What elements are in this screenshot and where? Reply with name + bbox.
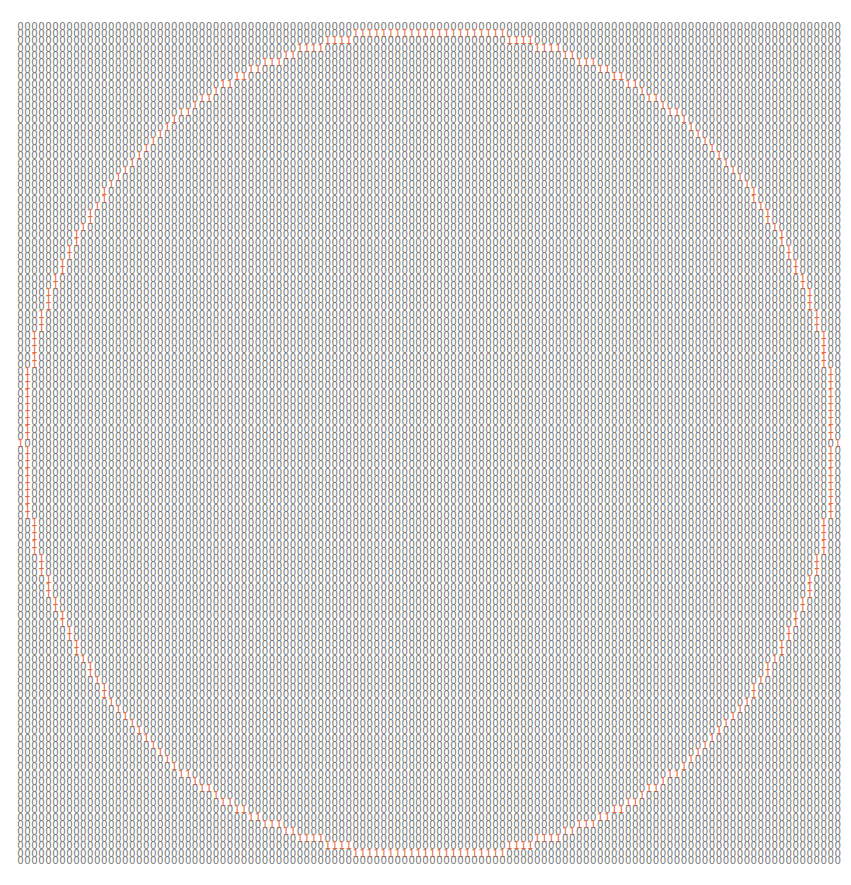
- bit-zero: 0: [729, 857, 736, 864]
- bit-zero: 0: [701, 857, 708, 864]
- bit-zero: 0: [282, 857, 289, 864]
- bit-zero: 0: [268, 857, 275, 864]
- bit-zero: 0: [80, 857, 87, 864]
- bit-zero: 0: [499, 857, 506, 864]
- bit-zero: 0: [688, 857, 695, 864]
- bit-zero: 0: [715, 857, 722, 864]
- bit-zero: 0: [150, 857, 157, 864]
- bit-zero: 0: [185, 857, 192, 864]
- bit-zero: 0: [513, 857, 520, 864]
- bit-zero: 0: [17, 857, 24, 864]
- bit-zero: 0: [771, 857, 778, 864]
- bit-zero: 0: [241, 857, 248, 864]
- bit-zero: 0: [785, 857, 792, 864]
- bit-zero: 0: [73, 857, 80, 864]
- bit-zero: 0: [373, 857, 380, 864]
- bit-zero: 0: [303, 857, 310, 864]
- bit-zero: 0: [792, 857, 799, 864]
- bit-zero: 0: [401, 857, 408, 864]
- bit-zero: 0: [101, 857, 108, 864]
- bit-zero: 0: [408, 857, 415, 864]
- bit-zero: 0: [254, 857, 261, 864]
- grid-row: 0000000000000000000000000000000000000000…: [17, 857, 841, 864]
- bit-zero: 0: [799, 857, 806, 864]
- bit-zero: 0: [597, 857, 604, 864]
- bit-zero: 0: [387, 857, 394, 864]
- bit-zero: 0: [296, 857, 303, 864]
- binary-circle-grid: 0000000000000000000000000000000000000000…: [17, 23, 841, 864]
- bit-zero: 0: [464, 857, 471, 864]
- bit-zero: 0: [694, 857, 701, 864]
- bit-zero: 0: [632, 857, 639, 864]
- bit-zero: 0: [359, 857, 366, 864]
- bit-zero: 0: [178, 857, 185, 864]
- bit-zero: 0: [555, 857, 562, 864]
- bit-zero: 0: [227, 857, 234, 864]
- bit-zero: 0: [639, 857, 646, 864]
- bit-zero: 0: [604, 857, 611, 864]
- bit-zero: 0: [331, 857, 338, 864]
- bit-zero: 0: [317, 857, 324, 864]
- bit-zero: 0: [206, 857, 213, 864]
- bit-zero: 0: [415, 857, 422, 864]
- bit-zero: 0: [338, 857, 345, 864]
- bit-zero: 0: [813, 857, 820, 864]
- bit-zero: 0: [122, 857, 129, 864]
- bit-zero: 0: [722, 857, 729, 864]
- bit-zero: 0: [457, 857, 464, 864]
- bit-zero: 0: [681, 857, 688, 864]
- bit-zero: 0: [485, 857, 492, 864]
- bit-zero: 0: [660, 857, 667, 864]
- bit-zero: 0: [576, 857, 583, 864]
- bit-zero: 0: [192, 857, 199, 864]
- bit-zero: 0: [820, 857, 827, 864]
- bit-zero: 0: [708, 857, 715, 864]
- bit-zero: 0: [667, 857, 674, 864]
- bit-zero: 0: [157, 857, 164, 864]
- bit-zero: 0: [422, 857, 429, 864]
- bit-zero: 0: [618, 857, 625, 864]
- bit-zero: 0: [24, 857, 31, 864]
- bit-zero: 0: [625, 857, 632, 864]
- bit-zero: 0: [143, 857, 150, 864]
- bit-zero: 0: [52, 857, 59, 864]
- bit-zero: 0: [94, 857, 101, 864]
- bit-zero: 0: [324, 857, 331, 864]
- bit-zero: 0: [520, 857, 527, 864]
- bit-zero: 0: [345, 857, 352, 864]
- bit-zero: 0: [443, 857, 450, 864]
- bit-zero: 0: [506, 857, 513, 864]
- bit-zero: 0: [548, 857, 555, 864]
- bit-zero: 0: [583, 857, 590, 864]
- bit-zero: 0: [31, 857, 38, 864]
- bit-zero: 0: [213, 857, 220, 864]
- bit-zero: 0: [45, 857, 52, 864]
- bit-zero: 0: [380, 857, 387, 864]
- bit-zero: 0: [827, 857, 834, 864]
- bit-zero: 0: [136, 857, 143, 864]
- bit-zero: 0: [736, 857, 743, 864]
- bit-zero: 0: [220, 857, 227, 864]
- bit-zero: 0: [590, 857, 597, 864]
- bit-zero: 0: [59, 857, 66, 864]
- bit-zero: 0: [366, 857, 373, 864]
- bit-zero: 0: [757, 857, 764, 864]
- bit-zero: 0: [492, 857, 499, 864]
- bit-zero: 0: [394, 857, 401, 864]
- bit-zero: 0: [289, 857, 296, 864]
- bit-zero: 0: [66, 857, 73, 864]
- bit-zero: 0: [234, 857, 241, 864]
- bit-zero: 0: [806, 857, 813, 864]
- bit-zero: 0: [471, 857, 478, 864]
- bit-zero: 0: [108, 857, 115, 864]
- bit-zero: 0: [164, 857, 171, 864]
- bit-zero: 0: [541, 857, 548, 864]
- bit-zero: 0: [778, 857, 785, 864]
- bit-zero: 0: [764, 857, 771, 864]
- bit-zero: 0: [129, 857, 136, 864]
- bit-zero: 0: [611, 857, 618, 864]
- bit-zero: 0: [750, 857, 757, 864]
- bit-zero: 0: [743, 857, 750, 864]
- bit-zero: 0: [478, 857, 485, 864]
- bit-zero: 0: [653, 857, 660, 864]
